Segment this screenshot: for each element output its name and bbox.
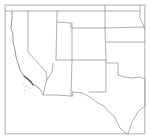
- island-2: [25, 85, 26, 86]
- tx-panhandle-north: [106, 63, 118, 75]
- island-4: [25, 90, 26, 91]
- ut-wy-notch: [57, 22, 105, 28]
- ne-ks-border: [105, 27, 144, 28]
- ca-az-border: [43, 63, 53, 95]
- state-borders: [5, 5, 145, 134]
- rio-grande: [82, 93, 128, 134]
- az-nm-border: [71, 60, 72, 96]
- channel-islands: [22, 83, 30, 90]
- co-east-border: [105, 28, 106, 60]
- southwest-us-map[interactable]: [0, 0, 150, 139]
- gulf-coast: [128, 106, 145, 134]
- mexico-border-west: [40, 89, 82, 96]
- ca-nv-border: [28, 11, 47, 80]
- red-river: [118, 75, 145, 79]
- map-frame: [6, 6, 145, 134]
- map-frame-outer: [5, 5, 146, 135]
- island-3: [30, 88, 31, 89]
- map-container[interactable]: [0, 0, 150, 139]
- island-1: [22, 83, 23, 84]
- nm-tx-border: [89, 60, 106, 92]
- nv-ut-border: [56, 11, 57, 60]
